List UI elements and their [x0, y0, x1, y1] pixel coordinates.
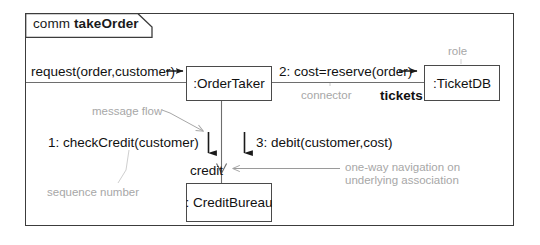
annotation-sequence-number: sequence number — [47, 186, 139, 199]
lifeline-creditbureau[interactable]: : CreditBureau — [186, 183, 272, 222]
communication-diagram: comm takeOrder — [0, 0, 540, 245]
annotation-one-way-navigation: one-way navigation on underlying associa… — [345, 161, 460, 187]
annotation-one-way-navigation-line1: one-way navigation on — [345, 161, 460, 174]
annotation-role: role — [448, 45, 467, 58]
annotation-connector: connector — [301, 89, 352, 102]
message-label-request: request(order,customer) — [31, 64, 175, 79]
frame-name-label: comm takeOrder — [33, 16, 139, 31]
lifeline-ticketdb-label: :TicketDB — [433, 76, 491, 91]
lifeline-ordertaker[interactable]: :OrderTaker — [186, 66, 272, 101]
role-label-credit: credit — [190, 163, 223, 178]
frame-name-tab: comm takeOrder — [25, 13, 153, 38]
message-label-cost-reserve: 2: cost=reserve(order) — [279, 64, 412, 79]
role-label-tickets: tickets — [380, 88, 423, 103]
message-label-check-credit: 1: checkCredit(customer) — [48, 135, 199, 150]
annotation-one-way-navigation-line2: underlying association — [345, 174, 460, 187]
lifeline-ordertaker-label: :OrderTaker — [193, 76, 264, 91]
lifeline-creditbureau-label: : CreditBureau — [185, 195, 272, 210]
message-label-debit: 3: debit(customer,cost) — [256, 135, 393, 150]
lifeline-ticketdb[interactable]: :TicketDB — [424, 65, 500, 101]
annotation-message-flow: message flow — [92, 105, 162, 118]
frame-keyword: comm — [33, 16, 70, 31]
frame-name: takeOrder — [74, 16, 139, 31]
